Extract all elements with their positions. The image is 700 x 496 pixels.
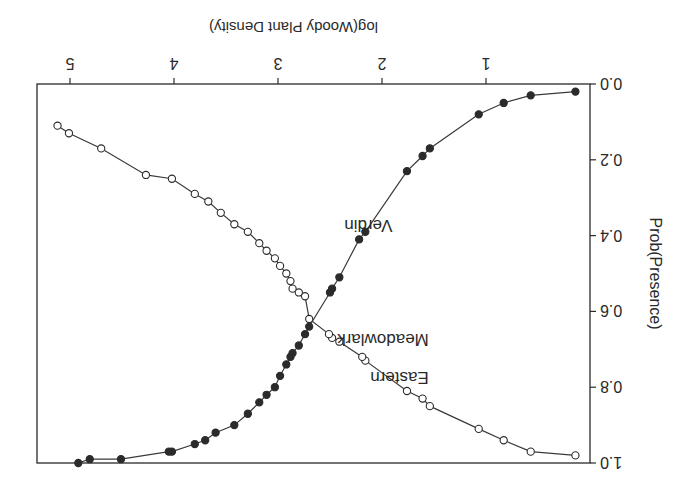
filled-marker xyxy=(426,145,433,152)
open-marker xyxy=(283,270,290,277)
filled-marker xyxy=(306,323,313,330)
series-line xyxy=(78,92,575,463)
filled-marker xyxy=(283,361,290,368)
y-axis-label: Prob(Presence) xyxy=(647,217,664,329)
filled-marker xyxy=(75,459,82,466)
open-marker xyxy=(419,395,426,402)
open-marker xyxy=(289,285,296,292)
y-tick-label: 1.0 xyxy=(600,454,622,471)
open-marker xyxy=(263,247,270,254)
open-marker xyxy=(572,452,579,459)
filled-marker xyxy=(326,289,333,296)
open-marker xyxy=(276,262,283,269)
open-marker xyxy=(426,403,433,410)
open-marker xyxy=(256,240,263,247)
x-tick-label: 2 xyxy=(377,55,386,72)
curve-annotation: Eastern xyxy=(370,368,429,387)
y-tick-label: 0.4 xyxy=(600,227,622,244)
open-marker xyxy=(54,122,61,129)
filled-marker xyxy=(231,422,238,429)
filled-marker xyxy=(212,429,219,436)
filled-marker xyxy=(276,372,283,379)
x-axis: 12345 xyxy=(65,55,490,84)
filled-marker xyxy=(256,399,263,406)
open-marker xyxy=(475,425,482,432)
filled-marker xyxy=(263,391,270,398)
open-marker xyxy=(306,315,313,322)
open-marker xyxy=(231,221,238,228)
filled-marker xyxy=(356,236,363,243)
annotation-layer: VerdinEasternMeadowlark xyxy=(337,216,429,387)
chart-figure: 12345 0.00.20.40.60.81.0 VerdinEasternMe… xyxy=(0,0,700,496)
filled-marker xyxy=(86,456,93,463)
open-marker xyxy=(98,145,105,152)
open-marker xyxy=(168,175,175,182)
open-marker xyxy=(271,255,278,262)
filled-marker xyxy=(572,88,579,95)
open-marker xyxy=(205,198,212,205)
open-marker xyxy=(217,209,224,216)
open-marker xyxy=(359,353,366,360)
filled-marker xyxy=(244,410,251,417)
filled-marker xyxy=(165,448,172,455)
series-eastern-meadowlark xyxy=(54,122,579,459)
filled-marker xyxy=(287,353,294,360)
x-axis-label: log(Woody Plant Density) xyxy=(209,19,378,36)
filled-marker xyxy=(419,152,426,159)
filled-marker xyxy=(271,384,278,391)
series-verdin xyxy=(75,88,579,467)
y-axis: 0.00.20.40.60.81.0 xyxy=(590,75,622,471)
filled-marker xyxy=(295,342,302,349)
open-marker xyxy=(500,437,507,444)
series-line xyxy=(58,126,576,456)
filled-marker xyxy=(475,111,482,118)
filled-marker xyxy=(191,440,198,447)
y-tick-label: 0.0 xyxy=(600,75,622,92)
filled-marker xyxy=(527,92,534,99)
open-marker xyxy=(244,228,251,235)
filled-marker xyxy=(202,437,209,444)
open-marker xyxy=(191,190,198,197)
filled-marker xyxy=(117,456,124,463)
x-tick-label: 1 xyxy=(481,55,490,72)
filled-marker xyxy=(500,99,507,106)
x-tick-label: 3 xyxy=(273,55,282,72)
open-marker xyxy=(325,331,332,338)
filled-marker xyxy=(403,168,410,175)
y-tick-label: 0.2 xyxy=(600,151,622,168)
open-marker xyxy=(527,448,534,455)
curve-annotation: Verdin xyxy=(344,216,392,235)
filled-marker xyxy=(301,331,308,338)
rotated-chart-group: 12345 0.00.20.40.60.81.0 VerdinEasternMe… xyxy=(37,19,664,471)
series-layer xyxy=(54,88,579,467)
open-marker xyxy=(403,387,410,394)
y-tick-label: 0.8 xyxy=(600,378,622,395)
curve-annotation: Meadowlark xyxy=(337,330,429,349)
open-marker xyxy=(287,277,294,284)
open-marker xyxy=(65,130,72,137)
x-tick-label: 5 xyxy=(65,55,74,72)
filled-marker xyxy=(336,274,343,281)
open-marker xyxy=(142,171,149,178)
chart-canvas: 12345 0.00.20.40.60.81.0 VerdinEasternMe… xyxy=(0,0,700,496)
x-tick-label: 4 xyxy=(169,55,178,72)
plot-frame xyxy=(37,84,590,463)
y-tick-label: 0.6 xyxy=(600,302,622,319)
